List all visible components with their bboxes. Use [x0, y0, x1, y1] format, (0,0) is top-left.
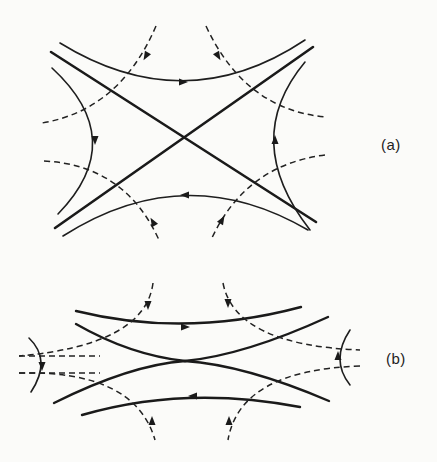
arrowhead-icon: [179, 79, 188, 86]
trajectory-2: [52, 68, 93, 214]
trajectory-0: [60, 40, 305, 81]
dashed-trajectory-3: [228, 366, 360, 440]
arrowhead-icon: [217, 214, 228, 225]
separatrix-3: [82, 398, 300, 415]
panel-b-tangent-separatrices: [19, 283, 360, 440]
arrowhead-icon: [272, 135, 279, 144]
dashed-trajectory-2: [19, 373, 155, 440]
arrowhead-icon: [147, 216, 158, 227]
trajectory-1: [63, 195, 308, 236]
arrowhead-icon: [39, 362, 46, 371]
dashed-trajectory-1: [223, 283, 360, 350]
arrowhead-icon: [226, 416, 233, 425]
panel-a-label: (a): [381, 136, 401, 153]
dashed-trajectory-1: [206, 26, 326, 117]
arrowhead-icon: [140, 51, 151, 62]
trajectory-0: [29, 338, 41, 392]
panel-b-label: (b): [386, 350, 406, 367]
trajectory-3: [274, 62, 310, 230]
arrowhead-icon: [213, 51, 224, 62]
trajectory-1: [340, 330, 350, 385]
arrowhead-icon: [180, 192, 189, 199]
panel-a-hyperbolic-point: [42, 26, 326, 240]
phase-portrait-figure: [0, 0, 437, 462]
separatrix-2: [76, 307, 301, 324]
arrowhead-icon: [149, 416, 156, 425]
dashed-trajectory-0: [19, 283, 153, 356]
